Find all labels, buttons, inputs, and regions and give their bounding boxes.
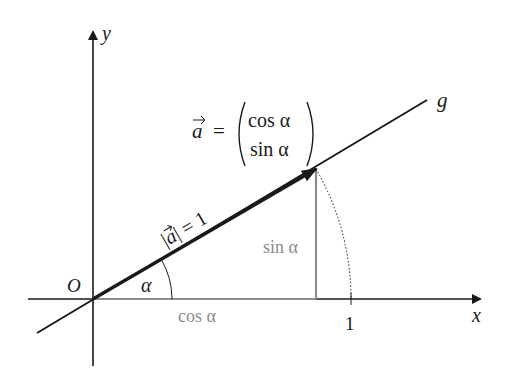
vector-equals: = [213, 119, 225, 143]
vector-definition: a = cos α sin α [192, 102, 313, 166]
unit-arc [316, 169, 351, 299]
tick-label-1: 1 [345, 313, 355, 334]
y-axis-label: y [100, 22, 111, 45]
vector-a [93, 169, 316, 299]
diagram-canvas: y x O 1 g α cos α sin α |a| = 1 a = cos … [0, 0, 506, 378]
vector-component-bottom: sin α [250, 138, 289, 160]
origin-label: O [67, 275, 81, 296]
line-g-label: g [437, 88, 448, 112]
angle-alpha-label: α [141, 274, 152, 296]
left-paren-icon [239, 102, 245, 166]
vector-a-symbol: a [192, 119, 203, 143]
sin-label: sin α [263, 237, 299, 257]
right-paren-icon [307, 102, 313, 166]
cos-label: cos α [178, 306, 216, 326]
vector-component-top: cos α [248, 109, 291, 131]
angle-arc [161, 259, 172, 299]
x-axis-label: x [471, 304, 481, 326]
